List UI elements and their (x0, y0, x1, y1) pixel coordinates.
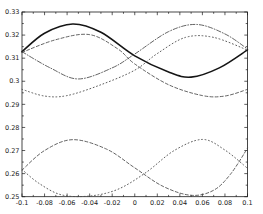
y-tick-label: 0.25 (5, 193, 19, 201)
x-tick-label: 0.06 (195, 199, 209, 207)
figure: -0.1-0.08-0.06-0.04-0.0200.020.040.060.0… (0, 0, 263, 214)
y-tick-label: 0.28 (5, 124, 19, 132)
y-tick-label: 0.32 (5, 31, 19, 39)
x-tick-label: 0.02 (150, 199, 164, 207)
series-upper-solid (22, 24, 248, 77)
y-tick-label: 0.29 (5, 101, 19, 109)
y-tick-label: 0.3 (9, 77, 19, 85)
x-tick-label: 0 (133, 199, 137, 207)
series-upper-dashed (22, 34, 248, 97)
y-tick-label: 0.26 (5, 170, 19, 178)
series-upper-dotted (22, 36, 248, 97)
x-tick-label: -0.08 (36, 199, 53, 207)
x-tick-label: -0.06 (59, 199, 76, 207)
y-tick-label: 0.33 (5, 8, 19, 16)
series-lower-dashed (22, 140, 248, 196)
plot-canvas: -0.1-0.08-0.06-0.04-0.0200.020.040.060.0… (0, 0, 263, 214)
x-tick-label: -0.02 (104, 199, 121, 207)
y-tick-label: 0.27 (5, 147, 19, 155)
x-tick-label: 0.04 (173, 199, 187, 207)
x-tick-label: 0.1 (242, 199, 252, 207)
y-tick-label: 0.31 (5, 54, 19, 62)
x-tick-label: 0.08 (218, 199, 232, 207)
x-tick-label: -0.04 (81, 199, 98, 207)
